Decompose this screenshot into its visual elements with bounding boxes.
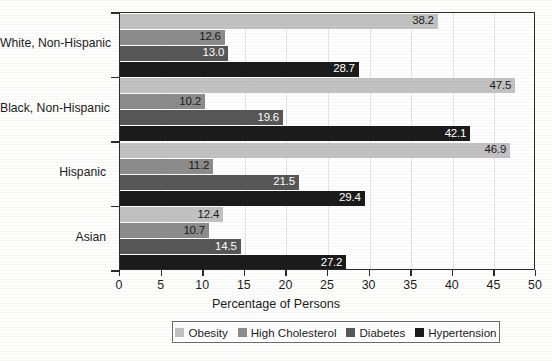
bar-value-label: 10.7 [183, 225, 205, 237]
x-axis-tick-label: 30 [362, 278, 376, 292]
x-axis-tick [202, 270, 203, 276]
x-axis-tick-label: 10 [195, 278, 209, 292]
bar-value-label: 12.4 [198, 209, 220, 221]
bar-value-label: 28.7 [333, 64, 355, 76]
bar-value-label: 13.0 [203, 48, 225, 60]
bar-value-label: 19.6 [257, 112, 279, 124]
y-axis-category-label: Black, Non-Hispanic [0, 101, 106, 115]
bar: 14.5 [120, 239, 241, 254]
bar: 11.2 [120, 159, 213, 174]
x-axis-tick [161, 270, 162, 276]
legend-item-hypertension[interactable]: Hypertension [415, 326, 496, 339]
x-axis-tick [410, 270, 411, 276]
x-axis-tick-label: 45 [486, 278, 500, 292]
legend-swatch-icon-hypertension [415, 328, 424, 337]
legend-label-diabetes: Diabetes [359, 326, 405, 339]
gridline [494, 13, 495, 269]
legend-label-high-cholesterol: High Cholesterol [251, 326, 337, 339]
x-axis-tick-label: 15 [237, 278, 251, 292]
bar: 29.4 [120, 191, 365, 206]
bar-value-label: 29.4 [339, 193, 361, 205]
x-axis-tick-label: 50 [528, 278, 542, 292]
bar-value-label: 11.2 [188, 161, 209, 173]
legend-label-obesity: Obesity [188, 326, 227, 339]
y-axis-tick [111, 12, 120, 14]
bar-value-label: 14.5 [215, 241, 237, 253]
x-axis-tick-label: 25 [320, 278, 334, 292]
bar: 27.2 [120, 255, 346, 270]
x-axis-tick [452, 270, 453, 276]
y-axis-tick [111, 77, 120, 79]
x-axis-tick-label: 40 [445, 278, 459, 292]
legend-swatch-icon-obesity [175, 328, 184, 337]
legend-swatch-icon-high-cholesterol [238, 328, 247, 337]
bar: 10.2 [120, 94, 205, 109]
y-axis-category-label: White, Non-Hispanic [0, 36, 106, 50]
legend: Obesity High Cholesterol Diabetes Hypert… [172, 321, 500, 343]
bar-value-label: 10.2 [179, 96, 201, 108]
legend-label-hypertension: Hypertension [428, 326, 496, 339]
legend-item-high-cholesterol[interactable]: High Cholesterol [238, 326, 337, 339]
bar-value-label: 47.5 [490, 80, 512, 92]
x-axis-title: Percentage of Persons [0, 297, 552, 311]
bar-value-label: 42.1 [445, 128, 467, 140]
x-axis-tick [119, 270, 120, 276]
bar: 42.1 [120, 126, 470, 141]
bar-value-label: 12.6 [199, 32, 221, 44]
y-axis-category-label: Asian [0, 230, 106, 244]
bar: 46.9 [120, 143, 510, 158]
bar: 12.4 [120, 207, 223, 222]
legend-swatch-icon-diabetes [346, 328, 355, 337]
legend-item-obesity[interactable]: Obesity [175, 326, 227, 339]
bar: 21.5 [120, 175, 299, 190]
bar: 38.2 [120, 14, 438, 29]
y-axis-tick [111, 141, 120, 143]
x-axis-tick [244, 270, 245, 276]
legend-item-diabetes[interactable]: Diabetes [346, 326, 405, 339]
x-axis-tick-label: 20 [278, 278, 292, 292]
x-axis-tick-label: 5 [157, 278, 164, 292]
bar-value-label: 38.2 [412, 16, 434, 28]
bar-value-label: 21.5 [273, 177, 295, 189]
plot-area: 38.212.613.028.747.510.219.642.146.911.2… [119, 12, 535, 270]
bar-value-label: 46.9 [485, 145, 507, 157]
bar-value-label: 27.2 [321, 257, 343, 269]
horizontal-bar-chart: 38.212.613.028.747.510.219.642.146.911.2… [0, 0, 552, 361]
x-axis-tick [535, 270, 536, 276]
x-axis-tick-label: 0 [116, 278, 123, 292]
bar: 10.7 [120, 223, 209, 238]
x-axis-tick [369, 270, 370, 276]
y-axis-tick [111, 206, 120, 208]
x-axis-tick-label: 35 [403, 278, 417, 292]
bar: 12.6 [120, 30, 225, 45]
y-axis-category-label: Hispanic [0, 165, 106, 179]
bar: 47.5 [120, 78, 515, 93]
bar: 19.6 [120, 110, 283, 125]
x-axis-tick [493, 270, 494, 276]
bar: 13.0 [120, 46, 228, 61]
x-axis-tick [285, 270, 286, 276]
bar: 28.7 [120, 62, 359, 77]
x-axis-tick [327, 270, 328, 276]
